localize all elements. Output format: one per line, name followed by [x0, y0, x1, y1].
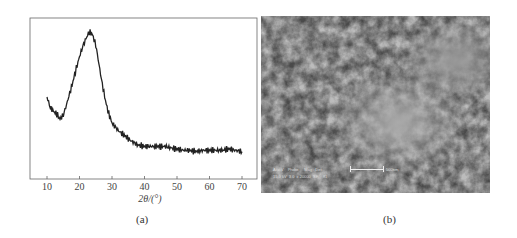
- x-tick-label: 70: [232, 181, 252, 192]
- x-tick-label: 30: [102, 181, 122, 192]
- panel-label-a: (a): [136, 213, 148, 225]
- x-tick-label: 20: [70, 181, 90, 192]
- x-axis-ticks: [47, 176, 242, 179]
- x-tick-label: 40: [135, 181, 155, 192]
- xrd-chart: [0, 0, 260, 200]
- sem-image: Acc.V Probe Mag Det 15.0 kV 3.0 x 20000 …: [261, 16, 490, 193]
- panel-label-b: (b): [383, 213, 396, 225]
- x-tick-label: 10: [37, 181, 57, 192]
- x-tick-label: 60: [200, 181, 220, 192]
- scale-bar: [350, 169, 384, 170]
- scale-bar-left-tick: [350, 166, 351, 172]
- sem-info-values: 15.0 kV 3.0 x 20000 SE 81: [273, 174, 327, 179]
- x-axis-label: 2θ/(°): [120, 193, 180, 204]
- plot-frame: [30, 18, 257, 179]
- xrd-curve: [47, 29, 242, 154]
- scale-bar-label: 500nm: [386, 167, 398, 172]
- scale-bar-right-tick: [383, 166, 384, 172]
- x-tick-label: 50: [167, 181, 187, 192]
- sem-info-header: Acc.V Probe Mag Det: [273, 167, 322, 172]
